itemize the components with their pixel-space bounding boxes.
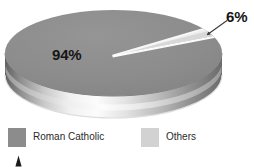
pie-slice-roman-catholic	[5, 10, 222, 96]
legend-label-others: Others	[166, 132, 196, 142]
legend-item-roman-catholic[interactable]: Roman Catholic	[8, 126, 104, 148]
legend-swatch-others	[141, 128, 159, 147]
leader-line-minor	[207, 21, 227, 36]
pie-chart: 94% 6% Roman Catholic Others	[0, 0, 254, 167]
legend-item-others[interactable]: Others	[141, 126, 196, 148]
pie-label-6-percent: 6%	[226, 8, 247, 25]
pie-label-94-percent: 94%	[52, 46, 81, 63]
legend-label-roman-catholic: Roman Catholic	[33, 132, 104, 142]
chart-legend: Roman Catholic Others	[0, 126, 254, 150]
triangle-up-icon	[14, 155, 23, 167]
legend-swatch-roman-catholic	[8, 128, 26, 147]
